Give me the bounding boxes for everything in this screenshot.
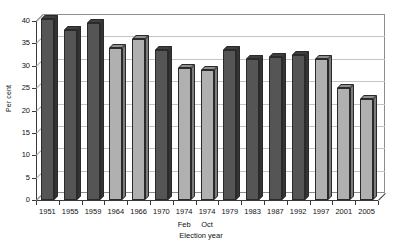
bar-side (145, 35, 149, 200)
y-tick-label: 40 (4, 17, 30, 25)
bar-face (337, 88, 350, 200)
bar (315, 59, 328, 200)
bar (132, 39, 145, 200)
x-axis-title: Election year (0, 231, 402, 240)
bar-face (360, 99, 373, 200)
y-tick-label: 20 (4, 107, 30, 115)
bar (155, 50, 168, 200)
bar-side (305, 51, 309, 200)
x-tick (264, 201, 265, 205)
x-tick (241, 201, 242, 205)
bar (178, 68, 191, 200)
x-tick (332, 201, 333, 205)
x-tick (82, 201, 83, 205)
x-tick (310, 201, 311, 205)
bar-side (236, 46, 240, 200)
bar-face (64, 30, 77, 200)
x-tick (355, 201, 356, 205)
bar-side (373, 95, 377, 200)
bar (64, 30, 77, 200)
bar-side (168, 46, 172, 200)
bar-face (132, 39, 145, 200)
x-tick-sublabel: Oct (187, 220, 227, 229)
bar-face (109, 48, 122, 200)
bar (109, 48, 122, 200)
x-tick-label: 2005 (347, 208, 387, 217)
bar-side (259, 55, 263, 200)
plot-area (36, 14, 385, 200)
bar (246, 59, 259, 200)
y-tick-label: 30 (4, 62, 30, 70)
x-tick (173, 201, 174, 205)
bar-face (315, 59, 328, 200)
x-tick (218, 201, 219, 205)
y-tick-label: 5 (4, 174, 30, 182)
x-tick (150, 201, 151, 205)
bar-side (77, 26, 81, 200)
y-tick-label: 15 (4, 129, 30, 137)
bar (292, 55, 305, 200)
bar-side (54, 15, 58, 200)
bar-side (191, 64, 195, 200)
bar-face (269, 57, 282, 200)
bar-side (214, 66, 218, 200)
bar-face (155, 50, 168, 200)
bar-face (41, 19, 54, 200)
bar-side (282, 53, 286, 200)
bar-chart: Per cent 0510152025303540 19511955195919… (0, 0, 402, 251)
x-tick-origin (36, 201, 37, 205)
bar-face (87, 23, 100, 200)
x-tick (378, 201, 379, 205)
bar (223, 50, 236, 200)
bar-face (223, 50, 236, 200)
bar-face (201, 70, 214, 200)
x-tick (59, 201, 60, 205)
x-tick (104, 201, 105, 205)
bar (360, 99, 373, 200)
x-tick (196, 201, 197, 205)
x-tick (287, 201, 288, 205)
bar (269, 57, 282, 200)
bar (41, 19, 54, 200)
bar (87, 23, 100, 200)
bar (201, 70, 214, 200)
bar-side (328, 55, 332, 200)
bars (36, 14, 385, 201)
bar-side (350, 84, 354, 200)
y-tick-label: 0 (4, 196, 30, 204)
bar-side (100, 19, 104, 200)
y-tick-label: 10 (4, 151, 30, 159)
bar-face (246, 59, 259, 200)
y-tick-label: 25 (4, 84, 30, 92)
bar-face (292, 55, 305, 200)
y-tick-label: 35 (4, 39, 30, 47)
bar-side (122, 44, 126, 200)
y-axis-title: Per cent (5, 69, 12, 129)
bar-face (178, 68, 191, 200)
bar (337, 88, 350, 200)
x-tick (127, 201, 128, 205)
